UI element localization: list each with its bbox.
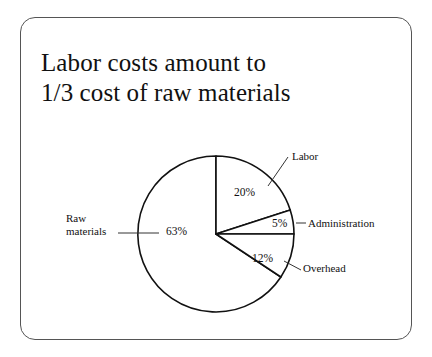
slide-canvas: Labor costs amount to 1/3 cost of raw ma… (0, 0, 432, 357)
slice-label-administration: Administration (308, 217, 375, 230)
leader-line-labor (268, 157, 288, 186)
pie-chart: Labor Administration Overhead Raw materi… (0, 0, 432, 357)
slice-value-administration: 5% (272, 217, 287, 230)
pie-chart-svg (0, 0, 432, 357)
slice-value-overhead: 12% (252, 252, 273, 265)
slice-value-raw-materials: 63% (166, 225, 187, 238)
slice-label-overhead: Overhead (303, 262, 346, 275)
slice-label-raw-materials: Raw materials (66, 212, 126, 238)
slice-label-labor: Labor (292, 150, 318, 163)
slice-value-labor: 20% (234, 186, 255, 199)
